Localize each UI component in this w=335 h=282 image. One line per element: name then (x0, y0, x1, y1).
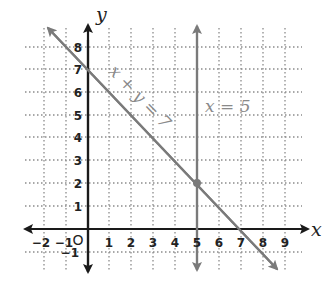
y-tick-5: 5 (74, 109, 82, 123)
equation-label-x-equals-5: x = 5 (205, 96, 250, 116)
y-tick-labels: 8 7 6 5 4 3 2 1 −1 (61, 41, 82, 260)
equation-label-x-plus-y-7: x + y = 7 (105, 61, 175, 133)
x-tick-minus-1: −1 (55, 236, 73, 250)
x-tick-4: 4 (171, 236, 179, 250)
x-tick-5: 5 (193, 236, 201, 250)
x-tick-2: 2 (127, 236, 135, 250)
y-tick-3: 3 (74, 154, 82, 168)
x-tick-6: 6 (215, 236, 223, 250)
x-tick-7: 7 (237, 236, 245, 250)
y-tick-7: 7 (74, 63, 82, 77)
x-tick-9: 9 (281, 236, 289, 250)
x-tick-3: 3 (149, 236, 157, 250)
x-axis-label: x (311, 218, 322, 240)
x-tick-8: 8 (259, 236, 267, 250)
origin-label: O (72, 232, 83, 248)
y-tick-4: 4 (74, 131, 82, 145)
y-tick-8: 8 (74, 41, 82, 55)
y-tick-2: 2 (74, 177, 82, 191)
x-tick-1: 1 (105, 236, 113, 250)
x-tick-minus-2: −2 (32, 236, 50, 250)
y-axis-label: y (95, 3, 107, 25)
coordinate-graph: y x 8 7 6 5 4 3 2 1 −1 −2 −1 O 1 2 3 4 5… (0, 0, 335, 282)
y-tick-6: 6 (74, 86, 82, 100)
intersection-point (193, 179, 201, 187)
y-tick-1: 1 (74, 200, 82, 214)
